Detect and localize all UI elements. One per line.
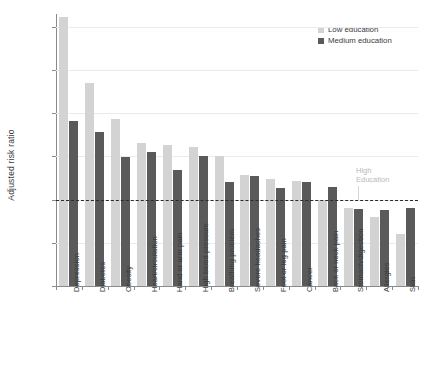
bar xyxy=(189,147,198,286)
bar xyxy=(163,145,172,286)
bar xyxy=(406,208,415,286)
y-axis-title: Adjusted risk ratio xyxy=(6,0,16,100)
x-tick-mark xyxy=(56,286,57,290)
bar-group xyxy=(108,14,134,286)
x-axis-label: Obesity xyxy=(124,266,133,292)
bar xyxy=(85,83,94,286)
x-tick-mark xyxy=(108,286,109,290)
x-tick-mark xyxy=(340,286,341,290)
bar xyxy=(111,119,120,286)
x-axis-label: Diabetes xyxy=(98,262,107,292)
bar xyxy=(59,17,68,286)
bar-group xyxy=(392,14,418,286)
reference-line-label-line2: Education xyxy=(356,175,416,184)
x-axis-label: Cancer xyxy=(305,267,314,292)
bar xyxy=(215,156,224,286)
bar xyxy=(292,181,301,286)
reference-line xyxy=(56,200,418,201)
y-axis-title-text: Adjusted risk ratio xyxy=(6,100,16,230)
bar-group xyxy=(366,14,392,286)
x-axis-label: Stomach/digestion xyxy=(356,229,365,292)
x-axis-label: Heart/circulation xyxy=(150,236,159,292)
x-axis-label: Depression xyxy=(72,253,81,292)
x-tick-mark xyxy=(134,286,135,290)
x-axis-label: Skin xyxy=(408,277,417,292)
x-axis-label: Back or neck pain xyxy=(331,231,340,292)
reference-line-label: HighEducation xyxy=(356,166,416,184)
x-tick-mark xyxy=(263,286,264,290)
x-tick-mark xyxy=(185,286,186,290)
bar xyxy=(396,234,405,286)
x-tick-mark xyxy=(159,286,160,290)
bar xyxy=(344,208,353,286)
reference-line-label-line1: High xyxy=(356,166,416,175)
bar xyxy=(240,175,249,286)
bar xyxy=(266,179,275,286)
x-axis-label: High blood pressure xyxy=(201,223,210,292)
x-tick-mark xyxy=(366,286,367,290)
x-tick-mark xyxy=(392,286,393,290)
x-tick-mark xyxy=(289,286,290,290)
x-axis-label: Allergies xyxy=(382,262,391,292)
bar-chart: Adjusted risk ratio Low education Medium… xyxy=(0,0,432,385)
bar-group xyxy=(289,14,315,286)
x-tick-mark xyxy=(237,286,238,290)
bar xyxy=(318,200,327,286)
x-tick-mark xyxy=(82,286,83,290)
x-tick-mark xyxy=(315,286,316,290)
bar-group xyxy=(82,14,108,286)
x-tick-mark xyxy=(418,286,419,290)
x-axis-label: Foot or leg pain xyxy=(279,238,288,292)
x-tick-mark xyxy=(211,286,212,290)
x-axis-label: Severe headaches xyxy=(253,228,262,292)
x-axis-label: Breathing problem xyxy=(227,229,236,292)
x-axis-label: Hand or arm pain xyxy=(175,232,184,292)
bar-group xyxy=(56,14,82,286)
reference-line-leader xyxy=(358,186,359,200)
bar xyxy=(137,143,146,286)
bar xyxy=(370,217,379,286)
